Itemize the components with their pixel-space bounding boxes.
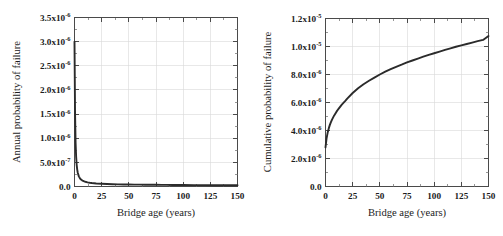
left-x-ticklabels: 0255075100125150 bbox=[72, 191, 245, 201]
chart-panel-left: 0255075100125150 0.05.0x10-71.0x10-61.5x… bbox=[0, 0, 251, 236]
x-tick-label: 50 bbox=[375, 191, 385, 201]
right-x-axis-title: Bridge age (years) bbox=[368, 207, 447, 219]
left-y-ticklabels: 0.05.0x10-71.0x10-61.5x10-62.0x10-62.5x1… bbox=[40, 11, 71, 192]
annual-probability-chart: 0255075100125150 0.05.0x10-71.0x10-61.5x… bbox=[0, 0, 251, 236]
x-tick-label: 75 bbox=[151, 191, 161, 201]
x-tick-label: 125 bbox=[203, 191, 217, 201]
x-tick-label: 50 bbox=[124, 191, 134, 201]
x-tick-label: 75 bbox=[402, 191, 412, 201]
x-tick-label: 0 bbox=[323, 191, 328, 201]
y-tick-label: 2.0x10-6 bbox=[291, 152, 322, 164]
y-tick-label: 1.0x10-6 bbox=[40, 132, 71, 144]
left-gridlines bbox=[75, 18, 238, 187]
figure-container: 0255075100125150 0.05.0x10-71.0x10-61.5x… bbox=[0, 0, 503, 236]
y-tick-label: 5.0x10-7 bbox=[40, 156, 71, 168]
left-y-axis-title: Annual probability of failure bbox=[11, 41, 22, 163]
y-tick-label: 0.0 bbox=[310, 182, 322, 192]
right-y-ticklabels: 0.02.0x10-64.0x10-66.0x10-68.0x10-61.0x1… bbox=[291, 12, 322, 192]
x-tick-label: 25 bbox=[348, 191, 358, 201]
y-tick-label: 6.0x10-6 bbox=[291, 96, 322, 108]
y-tick-label: 8.0x10-6 bbox=[291, 68, 322, 80]
y-tick-label: 1.0x10-5 bbox=[291, 40, 322, 52]
y-tick-label: 2.0x10-6 bbox=[40, 84, 71, 96]
x-tick-label: 100 bbox=[427, 191, 441, 201]
x-tick-label: 150 bbox=[482, 191, 496, 201]
y-tick-label: 3.5x10-6 bbox=[40, 11, 71, 23]
x-tick-label: 0 bbox=[72, 191, 77, 201]
cumulative-probability-chart: 0255075100125150 0.02.0x10-64.0x10-66.0x… bbox=[252, 0, 503, 236]
x-tick-label: 150 bbox=[231, 191, 245, 201]
chart-panel-right: 0255075100125150 0.02.0x10-64.0x10-66.0x… bbox=[252, 0, 503, 236]
right-x-ticklabels: 0255075100125150 bbox=[323, 191, 496, 201]
y-tick-label: 1.2x10-5 bbox=[291, 12, 322, 24]
x-tick-label: 125 bbox=[454, 191, 468, 201]
y-tick-label: 3.0x10-6 bbox=[40, 35, 71, 47]
left-x-axis-title: Bridge age (years) bbox=[117, 207, 196, 219]
x-tick-label: 25 bbox=[97, 191, 107, 201]
y-tick-label: 0.0 bbox=[59, 182, 71, 192]
right-y-axis-title: Cumulative probability of failure bbox=[262, 32, 273, 173]
y-tick-label: 2.5x10-6 bbox=[40, 59, 71, 71]
y-tick-label: 1.5x10-6 bbox=[40, 108, 71, 120]
x-tick-label: 100 bbox=[176, 191, 190, 201]
y-tick-label: 4.0x10-6 bbox=[291, 124, 322, 136]
